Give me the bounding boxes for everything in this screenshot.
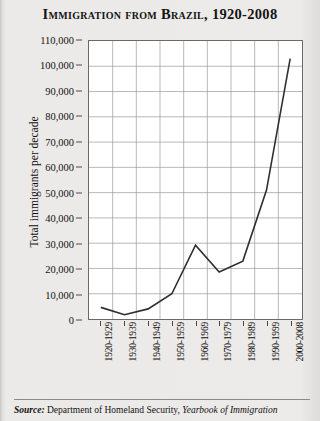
y-tick-mark — [76, 141, 82, 142]
x-tick-mark — [219, 321, 220, 326]
x-tick-mark — [124, 321, 125, 326]
y-tick-label: 80,000 — [45, 111, 74, 122]
x-tick-label: 1950-1959 — [176, 322, 186, 361]
divider — [14, 399, 310, 400]
y-tick-label: 20,000 — [45, 264, 74, 275]
x-tick-label: 1960-1969 — [200, 322, 210, 361]
y-tick-label: 100,000 — [40, 60, 74, 71]
y-tick-mark — [76, 192, 82, 193]
y-tick-mark — [76, 294, 82, 295]
y-tick-mark — [76, 218, 82, 219]
y-tick-mark — [76, 167, 82, 168]
page-title: Immigration from Brazil, 1920-2008 — [0, 6, 320, 23]
x-tick-mark — [243, 321, 244, 326]
x-tick-mark — [172, 321, 173, 326]
y-tick-label: 10,000 — [45, 289, 74, 300]
y-tick-label: 30,000 — [45, 238, 74, 249]
y-tick-mark — [76, 269, 82, 270]
x-tick-label: 1990-1999 — [271, 322, 281, 361]
y-tick-mark — [76, 65, 82, 66]
x-tick-label: 1970-1979 — [223, 322, 233, 361]
x-tick-label: 1930-1939 — [128, 322, 138, 361]
y-tick-label: 60,000 — [45, 162, 74, 173]
y-tick-label: 0 — [69, 315, 74, 326]
x-tick-label: 1980-1989 — [247, 322, 257, 361]
x-tick-label: 1920-1929 — [104, 322, 114, 361]
x-tick-mark — [291, 321, 292, 326]
y-tick-label: 50,000 — [45, 187, 74, 198]
x-tick-mark — [148, 321, 149, 326]
y-tick-label: 40,000 — [45, 213, 74, 224]
source-publication: Yearbook of Immigration — [182, 405, 277, 415]
data-line — [101, 59, 290, 315]
line-chart-svg — [89, 41, 302, 319]
x-tick-mark — [267, 321, 268, 326]
x-tick-mark — [100, 321, 101, 326]
x-tick-label: 2000-2008 — [295, 322, 305, 361]
y-tick-mark — [76, 116, 82, 117]
x-tick-mark — [196, 321, 197, 326]
x-tick-label: 1940-1949 — [152, 322, 162, 361]
y-axis-title: Total immigrants per decade — [28, 87, 40, 277]
source-note: Source: Department of Homeland Security,… — [14, 405, 312, 415]
y-tick-mark — [76, 40, 82, 41]
plot-area — [88, 40, 303, 320]
y-tick-label: 90,000 — [45, 85, 74, 96]
source-label: Source: — [14, 405, 45, 415]
y-tick-mark — [76, 320, 82, 321]
y-tick-label: 110,000 — [40, 35, 74, 46]
x-axis: 1920-19291930-19391940-19491950-19591960… — [88, 322, 303, 394]
y-tick-label: 70,000 — [45, 136, 74, 147]
source-agency: Department of Homeland Security, — [47, 405, 180, 415]
y-tick-mark — [76, 90, 82, 91]
y-tick-mark — [76, 243, 82, 244]
